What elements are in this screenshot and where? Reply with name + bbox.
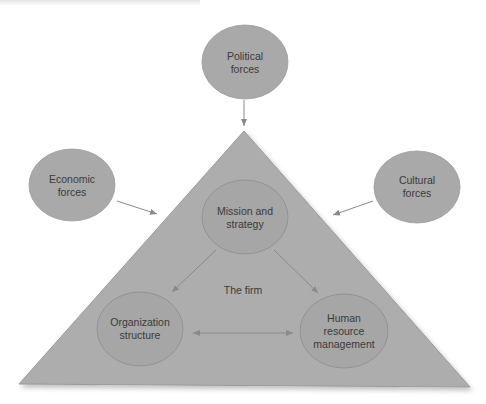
economic-forces-label: Economic forces <box>49 173 95 199</box>
mission-strategy-label: Mission and strategy <box>217 205 273 231</box>
economic-arrow <box>117 201 157 214</box>
hrm-label: Human resource management <box>313 312 374 351</box>
firm-label: The firm <box>224 284 263 297</box>
cultural-arrow <box>333 201 373 215</box>
cultural-forces-label: Cultural forces <box>399 174 435 200</box>
political-forces-label: Political forces <box>227 50 263 76</box>
organization-structure-label: Organization structure <box>110 316 170 342</box>
